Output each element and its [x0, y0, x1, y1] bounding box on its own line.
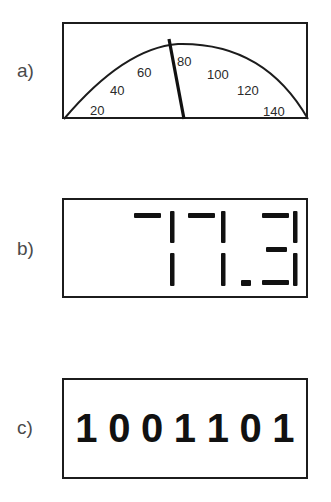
binary-digit: 1: [75, 408, 97, 448]
panel-c-label: c): [17, 417, 33, 439]
analog-gauge-frame: 20 40 60 80 100 120 140: [62, 22, 308, 119]
segment-digit-3: [262, 211, 298, 286]
binary-digit: 1: [272, 408, 294, 448]
binary-digit: 0: [141, 408, 163, 448]
gauge-tick-80: 80: [177, 54, 191, 69]
binary-digit: 1: [207, 408, 229, 448]
gauge-tick-120: 120: [237, 83, 259, 98]
binary-digit: 1: [174, 408, 196, 448]
binary-display: 1 0 0 1 1 0 1: [64, 408, 306, 448]
segment-digit-2: [188, 211, 226, 286]
segment-digit-1: [134, 211, 175, 286]
gauge-tick-60: 60: [137, 65, 151, 80]
segment-decimal-point: [241, 280, 251, 286]
gauge-tick-140: 140: [263, 104, 285, 119]
binary-display-frame: 1 0 0 1 1 0 1: [62, 378, 308, 479]
panel-a-label: a): [17, 60, 34, 82]
gauge-tick-20: 20: [90, 103, 104, 118]
binary-digit: 0: [240, 408, 262, 448]
seven-segment-frame: [62, 198, 308, 298]
panel-b-label: b): [17, 238, 34, 260]
gauge-tick-100: 100: [207, 67, 229, 82]
gauge-needle: [169, 39, 184, 119]
analog-gauge: 20 40 60 80 100 120 140: [64, 24, 310, 121]
binary-digit: 0: [108, 408, 130, 448]
gauge-tick-40: 40: [110, 83, 124, 98]
seven-segment-display: [64, 200, 310, 300]
